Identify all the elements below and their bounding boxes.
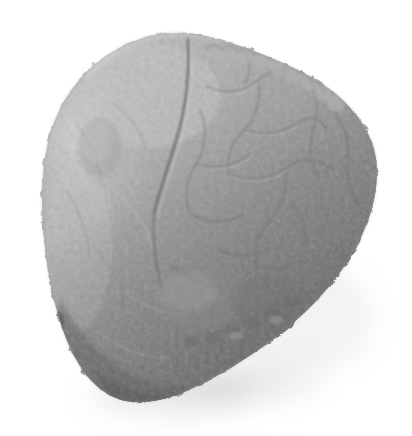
upper-left-pit xyxy=(78,118,122,178)
stone-photograph xyxy=(0,0,412,436)
image-viewer: stone Grayscale photograph of a rough, r… xyxy=(0,0,412,436)
